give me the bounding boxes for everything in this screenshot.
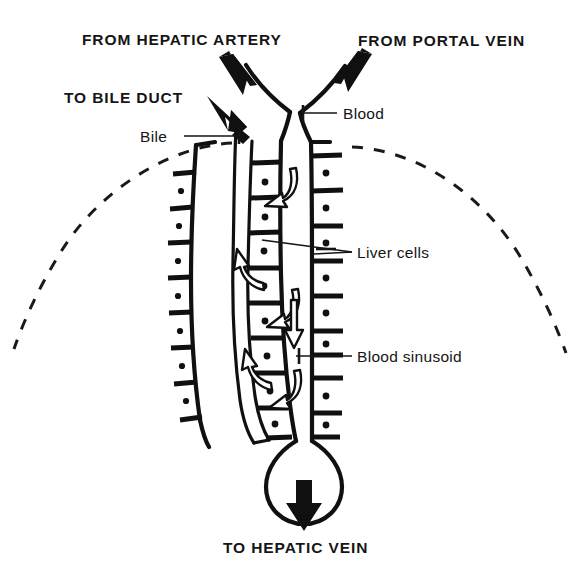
- label-from-portal-vein: FROM PORTAL VEIN: [358, 32, 525, 49]
- diagram-canvas: FROM HEPATIC ARTERY FROM PORTAL VEIN TO …: [0, 0, 586, 577]
- label-blood-sinusoid: Blood sinusoid: [357, 348, 462, 365]
- blood-sinusoid-leader-line: [296, 348, 352, 364]
- label-to-bile-duct: TO BILE DUCT: [64, 89, 183, 106]
- portal-triad-vessels: [246, 65, 345, 142]
- right-cell-plate: [311, 142, 343, 437]
- label-bile: Bile: [140, 128, 167, 145]
- label-blood: Blood: [343, 105, 384, 122]
- liver-cells-leader-lines: [262, 240, 352, 254]
- left-cell-plate: [168, 142, 215, 447]
- liver-lobule-diagram: FROM HEPATIC ARTERY FROM PORTAL VEIN TO …: [0, 0, 586, 577]
- label-to-hepatic-vein: TO HEPATIC VEIN: [223, 539, 368, 556]
- label-from-hepatic-artery: FROM HEPATIC ARTERY: [82, 31, 282, 48]
- label-liver-cells: Liver cells: [357, 244, 429, 261]
